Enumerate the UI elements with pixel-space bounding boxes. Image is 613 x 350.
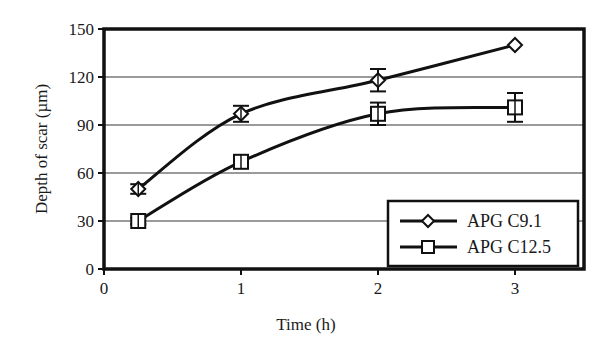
square-marker-icon (422, 241, 434, 253)
legend-label: APG C9.1 (467, 211, 542, 231)
y-axis-title: Depth of scar (µm) (32, 84, 51, 214)
x-axis-title: Time (h) (276, 315, 335, 334)
legend: APG C9.1APG C12.5 (388, 201, 578, 266)
y-tick-label: 150 (69, 20, 95, 39)
x-tick-label: 3 (511, 279, 520, 298)
y-tick-label: 60 (77, 164, 94, 183)
x-axis: 0123 (100, 269, 520, 298)
legend-label: APG C12.5 (467, 237, 551, 257)
line-chart: 0306090120150 0123 Depth of scar (µm) Ti… (0, 0, 613, 350)
y-axis: 0306090120150 (69, 20, 105, 279)
x-tick-label: 2 (374, 279, 383, 298)
data-series (130, 38, 523, 228)
y-tick-label: 0 (86, 260, 95, 279)
y-tick-label: 30 (77, 212, 94, 231)
diamond-marker-icon (508, 38, 522, 52)
grid-lines (104, 77, 584, 221)
x-tick-label: 1 (237, 279, 246, 298)
x-tick-label: 0 (100, 279, 109, 298)
legend-item: APG C12.5 (400, 237, 551, 257)
y-tick-label: 120 (69, 68, 95, 87)
y-tick-label: 90 (77, 116, 94, 135)
